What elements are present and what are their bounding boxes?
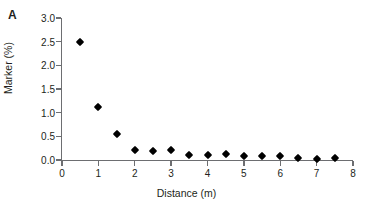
y-tick-mark (56, 17, 61, 18)
x-tick-label: 0 (50, 168, 74, 179)
x-tick-mark (134, 161, 135, 166)
x-tick-label: 6 (268, 168, 292, 179)
x-tick-label: 4 (196, 168, 220, 179)
y-tick-label: 2.5 (15, 36, 55, 47)
x-tick-label: 2 (123, 168, 147, 179)
y-tick-label: 0.0 (15, 155, 55, 166)
x-tick-label: 1 (86, 168, 110, 179)
y-tick-mark (56, 88, 61, 89)
x-tick-mark (352, 161, 353, 166)
y-tick-label: 3.0 (15, 13, 55, 24)
figure-panel-a: A 0.00.51.01.52.02.53.0 012345678 Distan… (0, 0, 373, 213)
x-tick-mark (280, 161, 281, 166)
x-tick-mark (170, 161, 171, 166)
y-tick-mark (56, 159, 61, 160)
y-tick-label: 2.0 (15, 60, 55, 71)
y-axis-title: Marker (%) (2, 0, 14, 138)
x-axis-title: Distance (m) (0, 187, 373, 199)
x-tick-mark (243, 161, 244, 166)
y-tick-label: 1.5 (15, 84, 55, 95)
plot-area (62, 18, 353, 160)
y-tick-label: 1.0 (15, 107, 55, 118)
x-tick-label: 5 (232, 168, 256, 179)
x-tick-label: 7 (305, 168, 329, 179)
x-tick-label: 3 (159, 168, 183, 179)
x-tick-label: 8 (341, 168, 365, 179)
x-tick-mark (61, 161, 62, 166)
x-tick-mark (98, 161, 99, 166)
x-tick-mark (207, 161, 208, 166)
y-tick-mark (56, 65, 61, 66)
y-tick-label: 0.5 (15, 131, 55, 142)
y-tick-mark (56, 112, 61, 113)
y-tick-mark (56, 41, 61, 42)
y-tick-mark (56, 136, 61, 137)
